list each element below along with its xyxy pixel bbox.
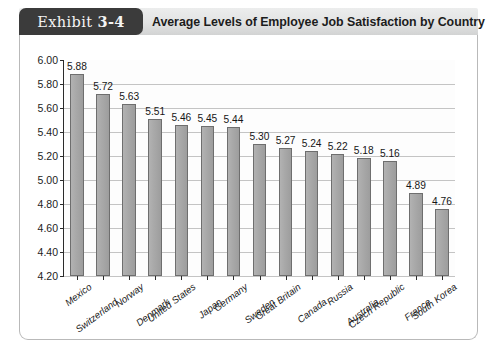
exhibit-page: Exhibit 3-4 Average Levels of Employee J… [0, 0, 497, 363]
bar-value-label: 5.88 [67, 61, 87, 72]
y-axis-tick-label: 5.60 [38, 102, 58, 114]
bar-value-label: 5.44 [224, 114, 244, 125]
x-axis-category-label: Czech Republic [346, 281, 406, 330]
x-axis-category-label: Canada [295, 296, 328, 325]
gridline [64, 84, 455, 85]
chart-title: Average Levels of Employee Job Satisfact… [152, 8, 485, 35]
bar-value-label: 5.72 [93, 81, 113, 92]
y-axis-tick-mark [60, 228, 64, 229]
bar-value-label: 5.22 [328, 141, 348, 152]
bar[interactable] [253, 144, 267, 276]
bar-value-label: 5.18 [354, 145, 374, 156]
y-axis-tick-mark [60, 276, 64, 277]
bar[interactable] [383, 161, 397, 276]
y-axis-tick-label: 5.80 [38, 78, 58, 90]
y-axis-tick-mark [60, 156, 64, 157]
exhibit-number: 3-4 [97, 13, 124, 30]
exhibit-tab-label: Exhibit 3-4 [37, 13, 125, 30]
bar-value-label: 5.16 [380, 148, 400, 159]
bar[interactable] [227, 127, 241, 276]
bar[interactable] [357, 158, 371, 276]
y-axis-tick-mark [60, 132, 64, 133]
exhibit-prefix: Exhibit [37, 14, 92, 30]
bar[interactable] [305, 151, 319, 276]
x-axis-category-label: Norway [113, 281, 146, 309]
bar-value-label: 5.51 [145, 106, 165, 117]
bar[interactable] [409, 193, 423, 276]
bar-value-label: 5.30 [250, 131, 270, 142]
x-axis-category-label: United States [145, 281, 198, 324]
y-axis-tick-mark [60, 252, 64, 253]
bar[interactable] [201, 126, 215, 276]
x-axis-category-label: Mexico [63, 281, 94, 308]
bar[interactable] [279, 148, 293, 276]
bar[interactable] [96, 94, 110, 276]
bar[interactable] [70, 74, 84, 276]
bar-value-label: 5.27 [276, 135, 296, 146]
x-axis-category-label: Russia [324, 281, 354, 307]
plot-area: 5.885.725.635.515.465.455.445.305.275.24… [63, 60, 455, 277]
bar-value-label: 4.76 [432, 196, 452, 207]
bar[interactable] [175, 125, 189, 276]
bar-value-label: 5.63 [119, 91, 139, 102]
y-axis-tick-label: 5.00 [38, 174, 58, 186]
y-axis-tick-label: 4.60 [38, 222, 58, 234]
y-axis-tick-mark [60, 84, 64, 85]
bar[interactable] [435, 209, 449, 276]
bar-value-label: 5.46 [171, 112, 191, 123]
y-axis-tick-label: 4.20 [38, 270, 58, 282]
bar-value-label: 4.89 [406, 180, 426, 191]
bar-value-label: 5.24 [302, 138, 322, 149]
y-axis-tick-label: 4.40 [38, 246, 58, 258]
y-axis-tick-mark [60, 204, 64, 205]
y-axis-tick-mark [60, 60, 64, 61]
y-axis-tick-mark [60, 180, 64, 181]
bar[interactable] [331, 154, 345, 276]
y-axis-tick-label: 4.80 [38, 198, 58, 210]
y-axis-tick-label: 6.00 [38, 54, 58, 66]
exhibit-tab: Exhibit 3-4 [19, 8, 143, 35]
bar-value-label: 5.45 [197, 113, 217, 124]
y-axis: 6.005.805.605.405.205.004.804.604.404.20 [19, 60, 61, 277]
y-axis-tick-mark [60, 108, 64, 109]
y-axis-tick-label: 5.40 [38, 126, 58, 138]
x-axis-category-label: Switzerland [73, 296, 119, 335]
bar[interactable] [122, 104, 136, 276]
x-axis-category-labels: MexicoSwitzerlandNorwayDenmarkUnited Sta… [63, 279, 463, 359]
y-axis-tick-label: 5.20 [38, 150, 58, 162]
bar[interactable] [148, 119, 162, 276]
